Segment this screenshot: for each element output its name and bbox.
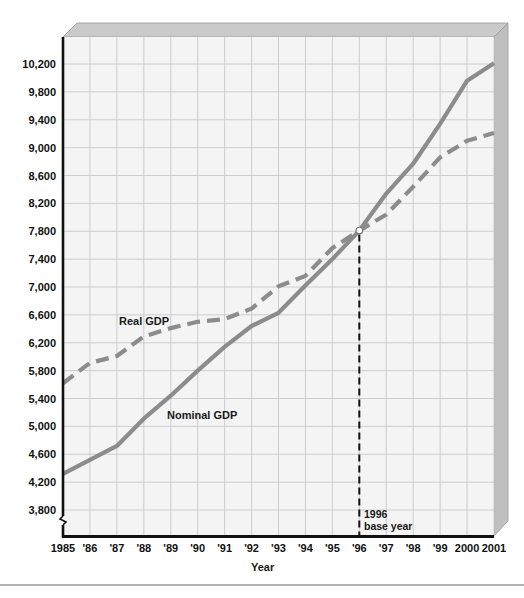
y-tick-label: 3,800 (28, 504, 56, 516)
x-tick-label: '95 (325, 542, 340, 554)
y-tick-labels: 10,2009,8009,4009,0008,6008,2007,8007,40… (22, 58, 56, 516)
y-tick-label: 8,200 (28, 197, 56, 209)
x-tick-label: '91 (217, 542, 232, 554)
y-tick-label: 5,400 (28, 393, 56, 405)
x-tick-label: '96 (352, 542, 367, 554)
x-tick-labels: 1985'86'87'88'89'90'91'92'93'94'95'96'97… (51, 542, 506, 554)
x-tick-label: '90 (190, 542, 205, 554)
y-tick-label: 6,200 (28, 337, 56, 349)
y-tick-label: 5,800 (28, 365, 56, 377)
x-tick-label: '93 (271, 542, 286, 554)
y-tick-label: 7,000 (28, 281, 56, 293)
base-year-label: 1996 base year (364, 508, 412, 532)
y-tick-label: 4,200 (28, 476, 56, 488)
y-tick-label: 10,200 (22, 58, 56, 70)
x-tick-label: '97 (379, 542, 394, 554)
y-tick-label: 5,000 (28, 420, 56, 432)
base-year-point (356, 227, 363, 234)
y-tick-label: 9,400 (28, 114, 56, 126)
y-tick-label: 8,600 (28, 170, 56, 182)
x-tick-label: '86 (83, 542, 98, 554)
base-year-number: 1996 (364, 508, 412, 520)
nominal-gdp-label: Nominal GDP (167, 409, 237, 421)
y-tick-label: 4,600 (28, 448, 56, 460)
y-tick-label: 7,800 (28, 225, 56, 237)
y-tick-label: 9,800 (28, 86, 56, 98)
x-tick-label: '99 (433, 542, 448, 554)
base-year-text: base year (364, 520, 412, 532)
bevel-top (63, 23, 508, 37)
y-tick-label: 7,400 (28, 253, 56, 265)
x-tick-label: '98 (406, 542, 421, 554)
y-tick-label: 6,600 (28, 309, 56, 321)
y-tick-label: 9,000 (28, 142, 56, 154)
x-tick-label: 2000 (455, 542, 479, 554)
real-gdp-label: Real GDP (119, 315, 169, 327)
x-tick-label: '94 (298, 542, 314, 554)
x-tick-label: 1985 (51, 542, 75, 554)
gdp-line-chart: 10,2009,8009,4009,0008,6008,2007,8007,40… (0, 0, 524, 598)
x-tick-label: '88 (136, 542, 151, 554)
x-tick-label: '92 (244, 542, 259, 554)
x-tick-label: '87 (109, 542, 124, 554)
x-tick-label: 2001 (482, 542, 506, 554)
x-tick-label: '89 (163, 542, 178, 554)
bevel-right (494, 23, 508, 536)
x-axis-title: Year (251, 561, 274, 573)
